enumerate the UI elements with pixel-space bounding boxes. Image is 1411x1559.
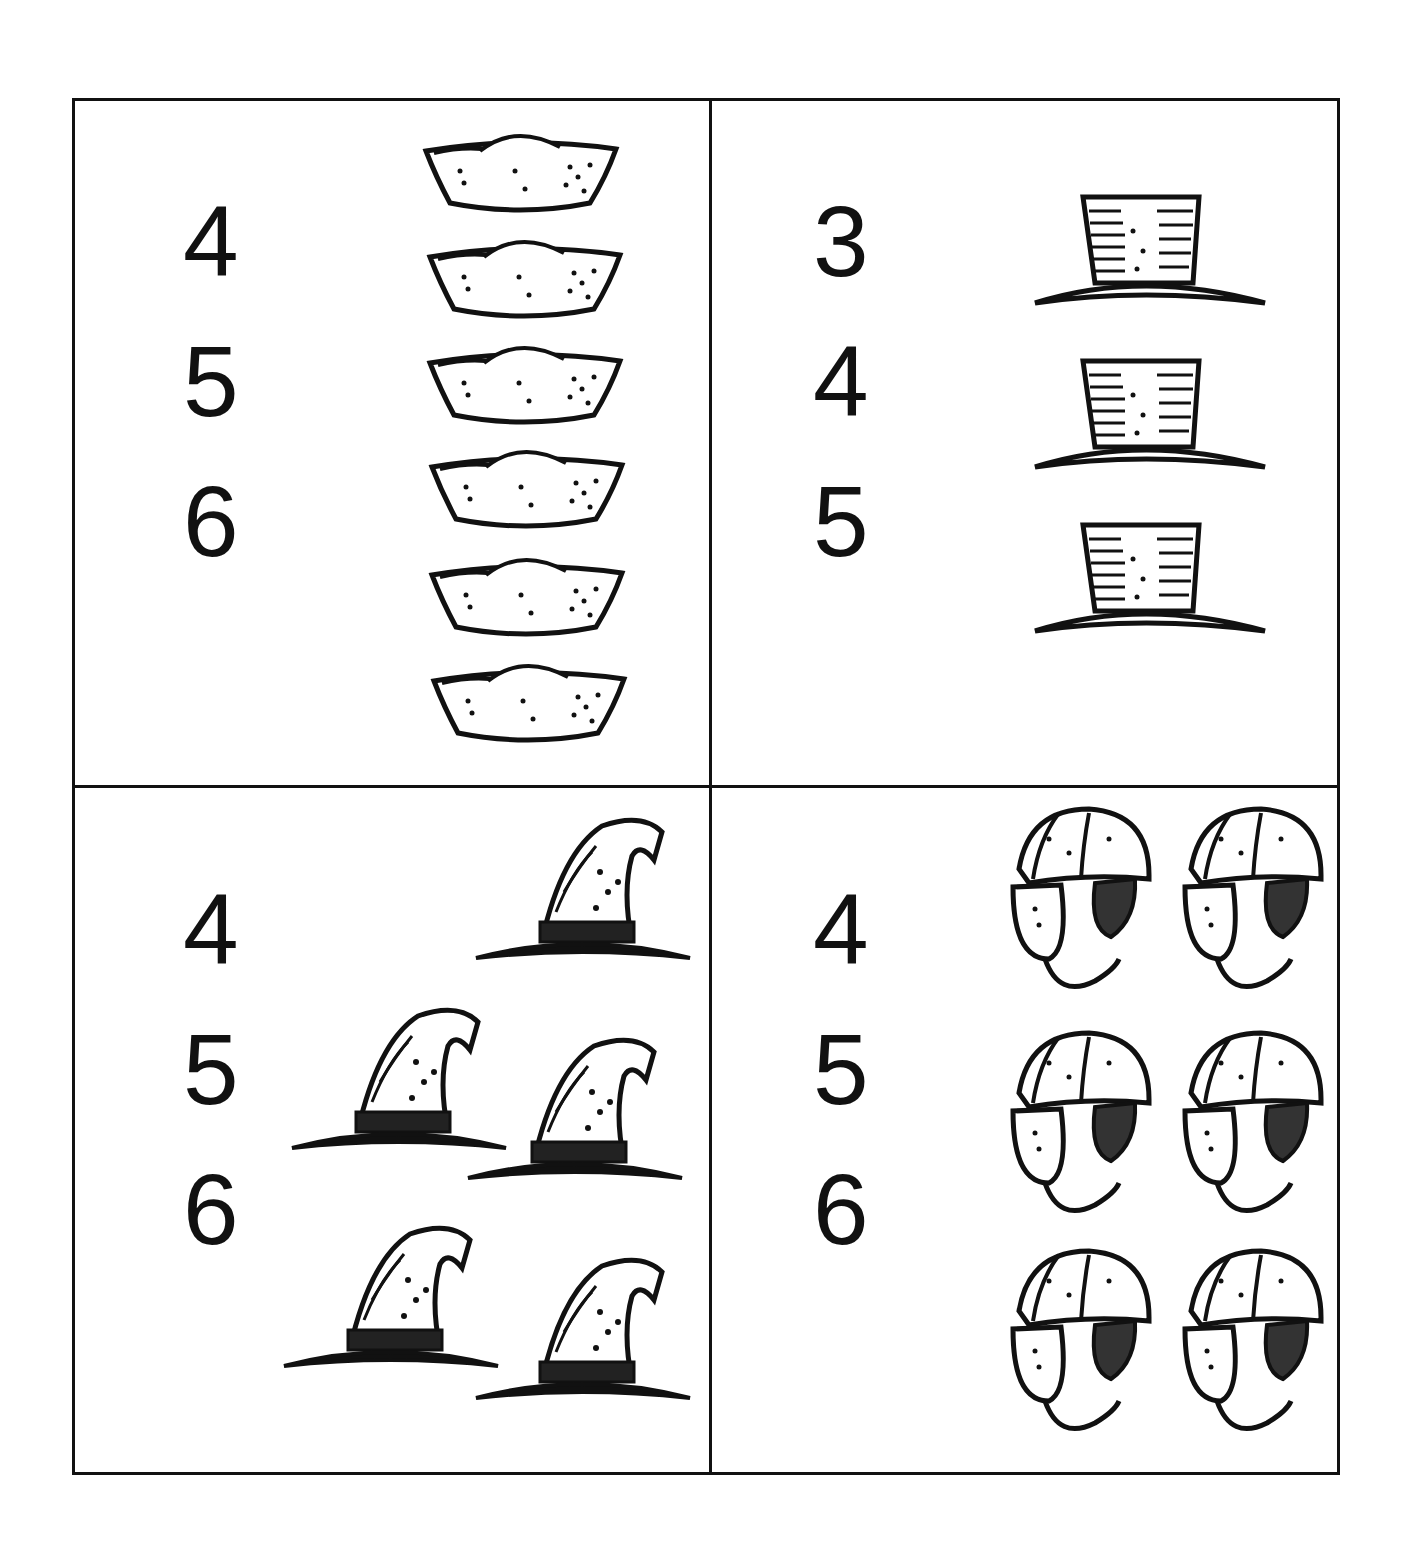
cell-aviator-caps-choices: 4 5 6 — [813, 859, 869, 1279]
cell-top-hats-choices: 3 4 5 — [813, 171, 869, 591]
cell-witch-hats-choices: 4 5 6 — [183, 859, 239, 1279]
choice-number[interactable]: 5 — [183, 311, 239, 451]
witch-hat-picture-group — [280, 806, 700, 1456]
choice-number[interactable]: 6 — [183, 1139, 239, 1279]
choice-number[interactable]: 4 — [813, 311, 869, 451]
top-hat-picture-group — [1033, 191, 1273, 701]
worksheet-grid: 4 5 6 3 4 5 4 5 6 — [72, 98, 1340, 1475]
top-hat-icon — [1033, 191, 1273, 701]
choice-number[interactable]: 4 — [183, 859, 239, 999]
horizontal-divider — [75, 785, 1337, 788]
choice-number[interactable]: 5 — [813, 999, 869, 1139]
choice-number[interactable]: 4 — [813, 859, 869, 999]
choice-number[interactable]: 6 — [813, 1139, 869, 1279]
cell-sailor-hats-choices: 4 5 6 — [183, 171, 239, 591]
choice-number[interactable]: 5 — [183, 999, 239, 1139]
witch-hat-icon — [280, 806, 700, 1456]
aviator-cap-icon — [995, 803, 1345, 1463]
choice-number[interactable]: 6 — [183, 451, 239, 591]
choice-number[interactable]: 4 — [183, 171, 239, 311]
choice-number[interactable]: 5 — [813, 451, 869, 591]
aviator-cap-picture-group — [995, 803, 1345, 1463]
sailor-hat-icon — [420, 131, 630, 761]
sailor-hat-picture-group — [420, 131, 630, 761]
choice-number[interactable]: 3 — [813, 171, 869, 311]
